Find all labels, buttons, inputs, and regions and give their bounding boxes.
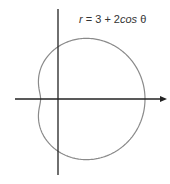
x-axis-arrow-icon [160,96,167,102]
equation-label: r = 3 + 2cos θ [79,13,146,25]
equation-rest: = 3 + 2 [83,13,120,25]
limacon-diagram: r = 3 + 2cos θ [0,0,170,184]
equation-cos: cos [120,13,137,25]
diagram-canvas [0,0,170,184]
equation-theta: θ [137,13,146,25]
